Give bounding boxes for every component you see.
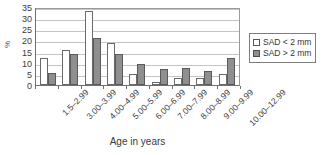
bar-group [126,9,148,85]
bar [62,50,70,85]
bar [93,38,101,85]
bar [129,74,137,85]
y-axis-tick-label: 35 [22,4,32,13]
bar-group [37,9,59,85]
bar [160,69,168,85]
legend-item: SAD > 2 mm [253,48,311,59]
y-axis-tick-labels: 35302520151050 [12,8,32,86]
bar-group [193,9,215,85]
bar-group [104,9,126,85]
bar-group [59,9,81,85]
x-axis-tick-mark [240,86,241,89]
y-axis-tick-label: 15 [22,48,32,57]
y-axis-tick-label: 10 [22,59,32,68]
bars-layer [36,9,239,85]
legend-item-label: SAD > 2 mm [263,49,311,58]
bar-group [82,9,104,85]
bar [107,43,115,85]
bar [115,54,123,85]
bar [152,82,160,85]
bar-group [149,9,171,85]
bar [196,78,204,85]
bar [48,73,56,85]
bar [70,54,78,85]
x-axis-title: Age in years [35,136,240,147]
legend-item-label: SAD < 2 mm [263,38,311,47]
y-axis-tick-label: 0 [27,82,32,91]
legend-swatch-icon [253,39,260,46]
legend-swatch-icon [253,50,260,57]
y-axis-tick-label: 25 [22,26,32,35]
bar-chart: % 35302520151050 1.5–2.993.00–3.994.00–4… [0,0,327,155]
bar-group [171,9,193,85]
bar [182,68,190,85]
bar [227,58,235,85]
x-axis-tick-labels: 1.5–2.993.00–3.994.00–4.995.00–5.996.00–… [35,88,240,130]
bar [204,71,212,85]
legend-item: SAD < 2 mm [253,37,311,48]
chart-legend: SAD < 2 mmSAD > 2 mm [249,33,316,63]
y-axis-tick-label: 20 [22,37,32,46]
bar [219,74,227,85]
bar [174,78,182,85]
bar-group [216,9,238,85]
bar [85,11,93,85]
bar [40,58,48,85]
y-axis-tick-label: 5 [27,70,32,79]
y-axis-title: % [3,41,12,48]
bar [137,64,145,85]
y-axis-tick-label: 30 [22,15,32,24]
plot-area [35,8,240,86]
